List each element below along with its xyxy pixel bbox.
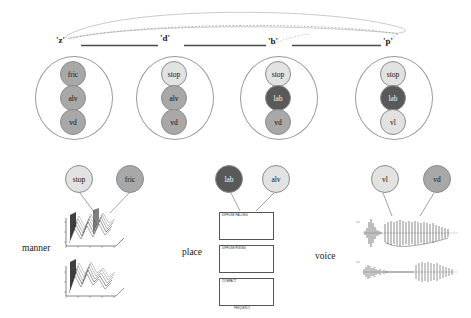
panel-title: DIFFUSE RISING xyxy=(220,246,273,250)
category-node-voice-vl[interactable]: vl xyxy=(371,165,399,193)
voice-evidence-links xyxy=(383,193,434,216)
feature-node-z-alv[interactable]: alv xyxy=(60,85,86,111)
feature-node-label: vd xyxy=(274,118,282,127)
category-node-voice-vd[interactable]: vd xyxy=(423,165,451,193)
manner-spectral-plot-1 xyxy=(64,208,124,248)
feature-node-label: stop xyxy=(73,175,86,184)
category-node-manner-fric[interactable]: fric xyxy=(116,165,144,193)
feature-node-p-vl[interactable]: vl xyxy=(380,109,406,135)
word-label-b: 'b' xyxy=(268,36,278,46)
feature-node-b-stop[interactable]: stop xyxy=(265,61,291,87)
feature-node-label: vl xyxy=(390,118,396,127)
feature-node-p-lab[interactable]: lab xyxy=(380,85,406,111)
place-panel-diffuse-falling: DIFFUSE FALLING xyxy=(219,212,274,240)
feature-node-b-lab[interactable]: lab xyxy=(265,85,291,111)
voice-waveform-short-vot xyxy=(356,262,458,282)
category-node-manner-stop[interactable]: stop xyxy=(65,165,93,193)
place-panel-diffuse-rising: DIFFUSE RISING xyxy=(219,245,274,273)
category-node-place-alv[interactable]: alv xyxy=(262,165,290,193)
feature-node-label: lab xyxy=(224,175,233,184)
word-label-d: 'd' xyxy=(160,33,170,43)
panel-title: COMPACT xyxy=(220,279,273,283)
feature-node-label: vd xyxy=(170,118,178,127)
voice-waveform-long-vot xyxy=(356,219,458,247)
word-label-z: 'z' xyxy=(56,35,65,45)
panel-title: DIFFUSE FALLING xyxy=(220,213,273,217)
feature-node-label: vl xyxy=(382,175,388,184)
place-evidence-links xyxy=(231,193,274,211)
feature-node-label: vd xyxy=(69,118,77,127)
top-solid-arc xyxy=(66,12,405,38)
figure-canvas: 'z' 'd' 'b' 'p' fric alv vd stop alv vd … xyxy=(0,0,471,318)
feature-node-label: alv xyxy=(68,94,77,103)
manner-spectral-plot-2 xyxy=(64,259,124,298)
feature-node-d-alv[interactable]: alv xyxy=(161,85,187,111)
feature-node-d-vd[interactable]: vd xyxy=(161,109,187,135)
feature-node-label: stop xyxy=(387,70,400,79)
feature-node-label: fric xyxy=(68,70,78,79)
top-arc-group xyxy=(66,12,405,45)
feature-node-label: stop xyxy=(272,70,285,79)
category-node-place-lab[interactable]: lab xyxy=(215,165,243,193)
feature-node-label: lab xyxy=(273,94,282,103)
feature-node-d-stop[interactable]: stop xyxy=(161,61,187,87)
category-label-manner: manner xyxy=(22,243,51,253)
feature-node-label: alv xyxy=(169,94,178,103)
feature-node-p-stop[interactable]: stop xyxy=(380,61,406,87)
category-label-place: place xyxy=(182,247,202,257)
feature-node-b-vd[interactable]: vd xyxy=(265,109,291,135)
word-label-p: 'p' xyxy=(383,36,393,46)
feature-node-label: lab xyxy=(388,94,397,103)
feature-node-z-vd[interactable]: vd xyxy=(60,109,86,135)
feature-node-z-fric[interactable]: fric xyxy=(60,61,86,87)
place-panel-compact-xlabel: FREQUENCY xyxy=(234,307,250,310)
feature-node-label: vd xyxy=(433,175,441,184)
place-panel-compact: COMPACT xyxy=(219,278,274,306)
feature-node-label: fric xyxy=(125,175,135,184)
manner-evidence-links xyxy=(80,193,129,213)
category-label-voice: voice xyxy=(315,251,336,261)
feature-node-label: stop xyxy=(168,70,181,79)
feature-node-label: alv xyxy=(271,175,280,184)
